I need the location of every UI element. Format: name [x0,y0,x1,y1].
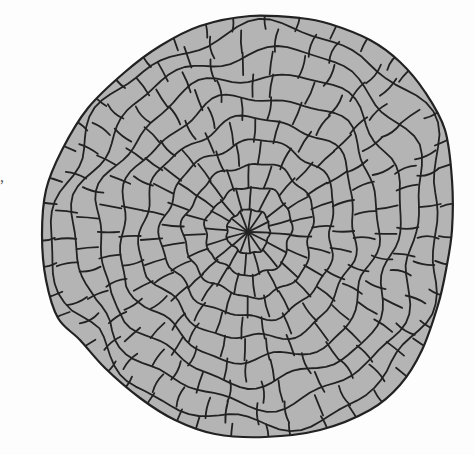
radial-cell-wall [333,231,354,232]
radial-cell-wall [119,236,141,237]
radial-cell-wall [243,53,244,75]
radial-cell-wall [252,74,253,97]
cell-tissue-diagram [0,0,475,455]
radial-cell-wall [98,232,119,233]
scanned-page: , [0,0,475,455]
radial-cell-wall [248,232,269,233]
tissue-outline [42,16,453,438]
radial-cell-wall [245,339,246,360]
radial-cell-wall [184,234,206,235]
